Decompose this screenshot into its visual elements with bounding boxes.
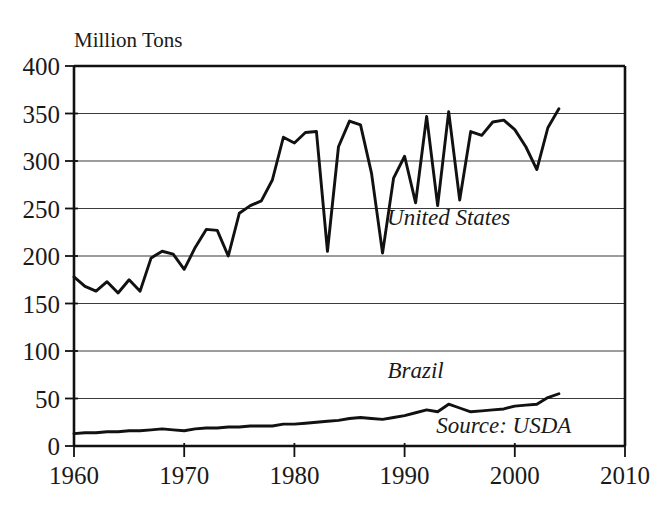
x-tick-label: 2010 [600,462,650,489]
y-axis-title: Million Tons [74,28,182,52]
x-tick-label: 1970 [159,462,209,489]
series-annotation-united-states: United States [387,205,510,230]
y-tick-label: 300 [23,148,61,175]
x-tick-label: 1960 [49,462,99,489]
y-tick-label: 350 [23,101,61,128]
y-tick-label: 150 [23,291,61,318]
x-tick-label: 2000 [490,462,540,489]
y-tick-label: 100 [23,338,61,365]
y-tick-label: 400 [23,53,61,80]
y-tick-label: 0 [48,433,61,460]
y-tick-label: 200 [23,243,61,270]
y-tick-label: 50 [35,386,60,413]
corn-production-line-chart: 050100150200250300350400 196019701980199… [0,0,670,510]
chart-container: 050100150200250300350400 196019701980199… [0,0,670,510]
x-tick-label: 1980 [269,462,319,489]
source-annotation: Source: USDA [436,413,572,438]
series-annotation-brazil: Brazil [388,358,444,383]
y-tick-label: 250 [23,196,61,223]
x-tick-label: 1990 [380,462,430,489]
